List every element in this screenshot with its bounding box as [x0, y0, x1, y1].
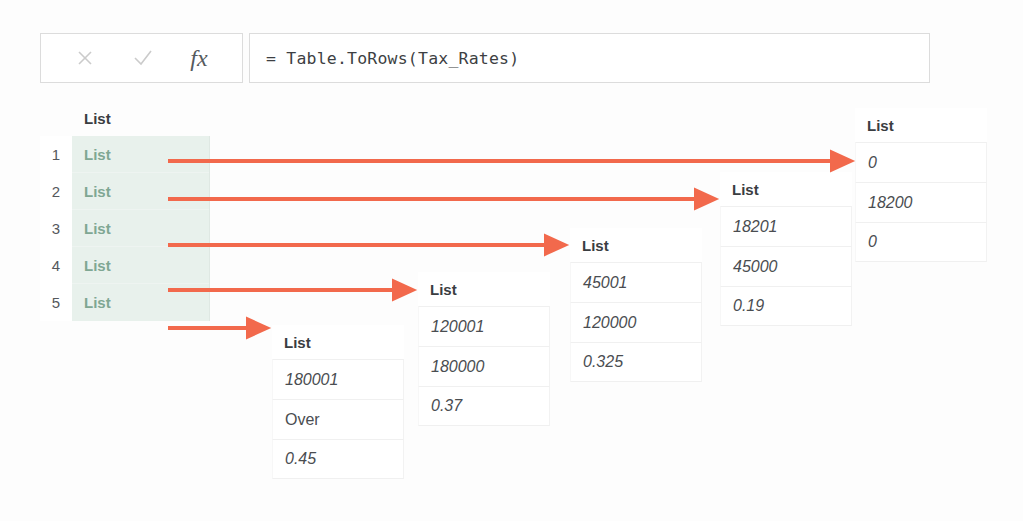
formula-input[interactable]: = Table.ToRows(Tax_Rates)	[249, 33, 930, 83]
table-row[interactable]: 2 List	[40, 173, 209, 210]
list-card-value: Over	[272, 399, 404, 439]
list-card-row1: List 0 18200 0	[855, 108, 987, 262]
list-card-value: 0.45	[272, 439, 404, 479]
list-card-header: List	[570, 228, 702, 262]
table-row[interactable]: 5 List	[40, 284, 209, 321]
list-card-row3: List 45001 120000 0.325	[570, 228, 702, 382]
power-query-list-preview: fx = Table.ToRows(Tax_Rates) List 1 List…	[0, 0, 1023, 521]
formula-bar: fx = Table.ToRows(Tax_Rates)	[40, 33, 930, 83]
list-card-value: 18200	[855, 182, 987, 222]
table-row[interactable]: 1 List	[40, 136, 209, 173]
list-card-value: 18201	[720, 206, 852, 246]
list-card-header: List	[418, 272, 550, 306]
table-row[interactable]: 3 List	[40, 210, 209, 247]
column-header-list: List	[72, 110, 210, 127]
grid-header-row: List	[40, 100, 210, 136]
row-number: 3	[40, 210, 72, 247]
list-card-value: 45000	[720, 246, 852, 286]
row-number: 2	[40, 173, 72, 210]
checkmark-icon[interactable]	[132, 48, 154, 68]
list-card-header: List	[855, 108, 987, 142]
formula-text: = Table.ToRows(Tax_Rates)	[266, 49, 519, 68]
list-card-header: List	[272, 325, 404, 359]
list-card-header: List	[720, 172, 852, 206]
list-link[interactable]: List	[72, 183, 209, 200]
list-card-value: 120001	[418, 306, 550, 346]
close-x-icon[interactable]	[75, 48, 95, 68]
row-number: 5	[40, 284, 72, 321]
list-card-row5: List 180001 Over 0.45	[272, 325, 404, 479]
list-link[interactable]: List	[72, 146, 209, 163]
fx-icon[interactable]: fx	[190, 46, 207, 70]
list-card-value: 0	[855, 142, 987, 182]
list-card-value: 180000	[418, 346, 550, 386]
list-card-value: 0.19	[720, 286, 852, 326]
list-link[interactable]: List	[72, 294, 209, 311]
list-card-value: 0.325	[570, 342, 702, 382]
grid-body: 1 List 2 List 3 List 4 List 5 List	[40, 136, 210, 321]
row-number: 1	[40, 136, 72, 173]
list-card-value: 0	[855, 222, 987, 262]
list-card-row2: List 18201 45000 0.19	[720, 172, 852, 326]
list-link[interactable]: List	[72, 257, 209, 274]
list-card-value: 45001	[570, 262, 702, 302]
result-grid: List 1 List 2 List 3 List 4 List 5 List	[40, 100, 210, 321]
list-card-value: 180001	[272, 359, 404, 399]
list-card-row4: List 120001 180000 0.37	[418, 272, 550, 426]
list-link[interactable]: List	[72, 220, 209, 237]
list-card-value: 0.37	[418, 386, 550, 426]
table-row[interactable]: 4 List	[40, 247, 209, 284]
list-card-value: 120000	[570, 302, 702, 342]
formula-bar-icon-group: fx	[40, 33, 243, 83]
row-number: 4	[40, 247, 72, 284]
